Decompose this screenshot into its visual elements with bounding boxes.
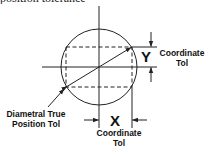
y-symbol: Y [141,48,151,65]
diametral-label-line2: Position Tol [12,119,60,129]
diametral-leader [48,89,64,107]
y-label-line1: Coordinate [160,48,205,58]
x-label-line1: Coordinate [97,128,142,138]
x-label-line2: Tol [113,138,125,148]
x-symbol: X [110,112,120,129]
y-label-line2: Tol [176,58,188,68]
true-position-diagram: Diametral True Position Tol Y Coordinate… [0,0,210,155]
diametral-label-line1: Diametral True [6,109,65,119]
